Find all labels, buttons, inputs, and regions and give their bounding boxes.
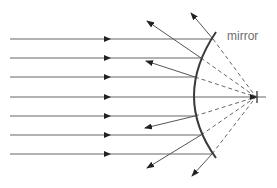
reflected-ray-7 <box>192 154 212 176</box>
reflected-ray-5 <box>145 116 195 128</box>
arrow-icon <box>104 55 111 61</box>
reflected-ray-3 <box>146 61 195 77</box>
reflected-ray-1 <box>191 13 213 39</box>
convex-mirror <box>194 32 216 158</box>
arrow-icon <box>104 36 111 42</box>
arrow-icon <box>104 74 111 80</box>
reflected-ray-6 <box>147 135 201 168</box>
focal-point <box>250 91 257 103</box>
convex-mirror-diagram: mirror <box>0 0 277 188</box>
mirror-label: mirror <box>227 29 258 43</box>
incident-rays <box>10 39 266 154</box>
arrow-icon <box>104 113 111 119</box>
arrow-icon <box>104 94 111 100</box>
arrow-icon <box>104 132 111 138</box>
arrow-icon <box>104 151 111 157</box>
reflected-rays <box>145 13 213 176</box>
